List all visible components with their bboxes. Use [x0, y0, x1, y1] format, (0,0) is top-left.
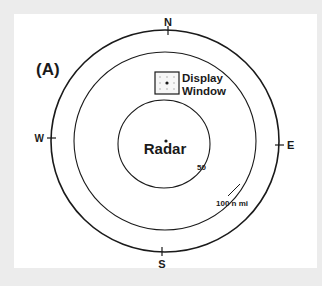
radar-label: Radar [144, 140, 187, 157]
display-window-label-line2: Window [182, 85, 226, 97]
display-window-box [155, 72, 179, 94]
north-label: N [164, 16, 172, 28]
range-50-label: 50 [197, 163, 206, 172]
east-label: E [287, 139, 294, 151]
south-label: S [158, 258, 165, 270]
range-100-label: 100 n mi [216, 199, 248, 208]
display-window-label-line1: Display [182, 72, 224, 84]
west-label: W [35, 133, 45, 144]
panel-label: (A) [36, 60, 60, 79]
radar-range-diagram: N S W E (A) Radar Display Window 50 100 … [0, 0, 322, 286]
